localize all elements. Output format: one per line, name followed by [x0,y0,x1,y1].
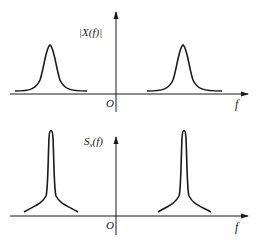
top-origin-label: O [106,97,114,109]
bottom-y-axis-label: Sx(f) [84,135,103,149]
bottom-left-peak-curve [24,131,78,213]
top-left-peak-curve [15,45,87,91]
top-x-axis-label: f [235,97,240,111]
bottom-x-axis-label: f [235,220,240,234]
top-right-peak-curve [147,45,222,91]
bottom-panel: Sx(f) O f [10,131,248,236]
top-y-axis-label: |X(f)| [79,26,102,39]
bottom-origin-label: O [106,219,114,231]
spectrum-diagram: |X(f)| O f Sx(f) O f [0,0,258,249]
bottom-right-peak-curve [158,131,211,213]
top-panel: |X(f)| O f [10,12,248,112]
